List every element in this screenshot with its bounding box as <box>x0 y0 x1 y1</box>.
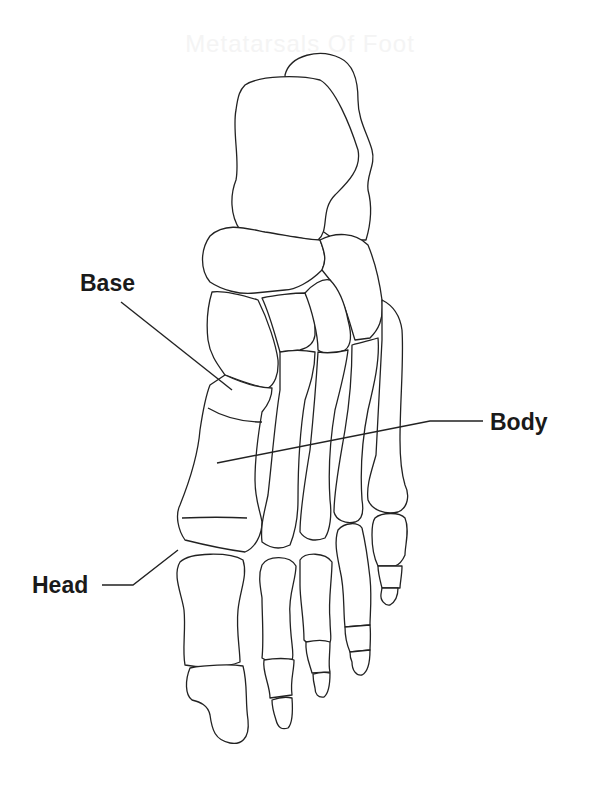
foot-skeleton-diagram <box>0 0 594 810</box>
label-head: Head <box>32 574 88 597</box>
big-toe-proximal-phalanx <box>177 554 245 667</box>
label-body: Body <box>490 411 548 434</box>
fifth-toe-distal-phalanx <box>381 588 398 605</box>
label-base: Base <box>80 272 135 295</box>
fifth-toe-proximal-phalanx <box>372 514 407 567</box>
third-toe-proximal-phalanx <box>300 554 332 644</box>
second-toe-proximal-phalanx <box>260 558 296 662</box>
fourth-toe-distal-phalanx <box>350 650 370 675</box>
head-leader-line <box>102 550 178 585</box>
fourth-toe-middle-phalanx <box>345 625 370 652</box>
second-toe-middle-phalanx <box>264 659 294 699</box>
fifth-toe-middle-phalanx <box>378 566 402 588</box>
third-toe-distal-phalanx <box>313 672 330 697</box>
big-toe-distal-phalanx <box>186 665 248 743</box>
first-metatarsal-bone <box>178 375 272 552</box>
third-toe-middle-phalanx <box>306 641 330 674</box>
fourth-toe-proximal-phalanx <box>336 524 371 627</box>
second-toe-distal-phalanx <box>272 697 292 728</box>
